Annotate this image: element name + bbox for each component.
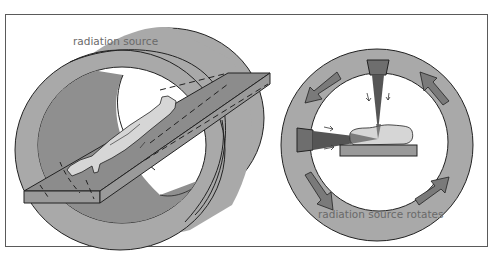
radiation-source-rotates-label: radiation source rotates — [318, 208, 444, 220]
patient-table-front — [24, 191, 100, 203]
radiation-source-label: radiation source — [73, 35, 158, 47]
table-cross-section — [340, 145, 417, 156]
radiation-source-top — [367, 60, 389, 75]
left-panel — [15, 27, 270, 250]
ct-scanner-diagram: radiation source — [0, 0, 497, 261]
radiation-source-left — [297, 128, 313, 152]
